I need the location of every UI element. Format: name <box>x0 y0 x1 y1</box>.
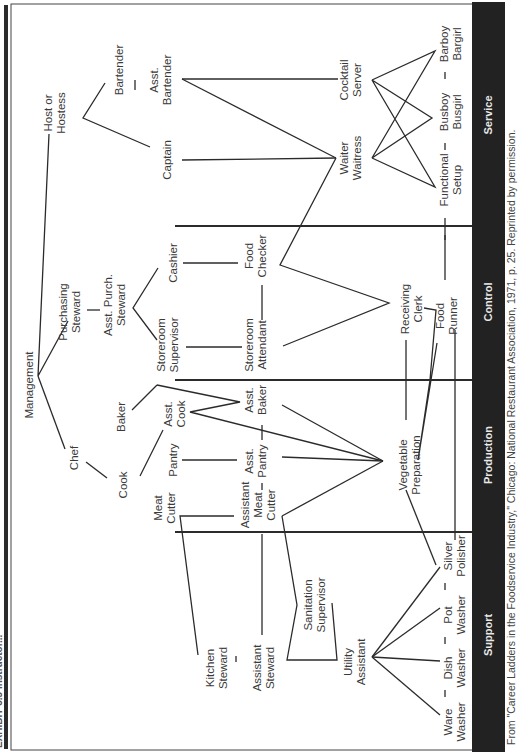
node-assistant-meat-cutter: AssistantMeatCutter <box>239 481 277 528</box>
node-meat-cutter: MeatCutter <box>152 492 177 523</box>
category-service: Service <box>482 95 494 134</box>
node-assistant-steward: AssistantSteward <box>251 644 276 691</box>
node-asst-pantry: Asst.Pantry <box>243 444 268 477</box>
node-sanitation-supervisor: SanitationSupervisor <box>302 577 327 632</box>
node-storeroom-supervisor: StoreroomSupervisor <box>155 317 180 372</box>
node-cashier: Cashier <box>167 243 179 283</box>
node-cocktail-server: CocktailServer <box>338 60 363 101</box>
node-functional-setup: FunctionalSetup <box>438 153 463 206</box>
node-asst-baker: Asst.Baker <box>243 385 268 415</box>
node-chef: Chef <box>68 445 80 470</box>
header-rule <box>4 5 8 749</box>
node-ware-washer: WareWasher <box>442 702 467 741</box>
node-utility-assistant: UtilityAssistant <box>342 638 367 685</box>
node-waiter: WaiterWaitress <box>338 136 363 181</box>
node-food-checker: FoodChecker <box>243 234 268 277</box>
node-vegetable-preparation: VegetablePreparation <box>397 435 422 494</box>
node-bartender: Bartender <box>113 45 125 96</box>
node-busboy: BusboyBusgirl <box>438 93 463 132</box>
node-storeroom-attendant: StoreroomAttendant <box>243 318 268 372</box>
diagram-frame <box>11 4 481 750</box>
node-asst-cook: Asst.Cook <box>162 400 187 427</box>
node-barboy: BarboyBargirl <box>438 26 463 63</box>
node-silver-polisher: SilverPolisher <box>442 535 467 577</box>
node-management: Management <box>23 351 35 419</box>
node-pot-washer: PotWasher <box>442 595 467 634</box>
header-title: EXHIBIT 3.5 Instructor... <box>0 634 4 748</box>
node-purchasing-steward: PurchasingSteward <box>57 283 82 341</box>
career-ladder-diagram: EXHIBIT 3.5 Instructor... Service Contro… <box>0 0 519 754</box>
node-cook: Cook <box>117 471 129 498</box>
node-kitchen-steward: KitchenSteward <box>204 647 229 689</box>
node-captain: Captain <box>161 140 173 180</box>
node-pantry: Pantry <box>167 443 179 476</box>
connector-lines <box>38 51 455 715</box>
node-dish-washer: DishWasher <box>442 648 467 687</box>
node-asst-bartender: Asst.Bartender <box>148 55 173 106</box>
node-asst-purch-steward: Asst. Purch.Steward <box>102 274 127 336</box>
category-support: Support <box>482 614 494 656</box>
node-host: Host orHostess <box>42 92 67 134</box>
category-control: Control <box>482 282 494 321</box>
category-production: Production <box>482 426 494 484</box>
node-food-runner: FoodRunner <box>434 297 459 335</box>
source-caption: From "Career Ladders in the Foodservice … <box>505 130 517 745</box>
node-baker: Baker <box>115 402 127 432</box>
header: EXHIBIT 3.5 Instructor... <box>0 634 4 748</box>
node-receiving-clerk: ReceivingClerk <box>399 284 424 335</box>
